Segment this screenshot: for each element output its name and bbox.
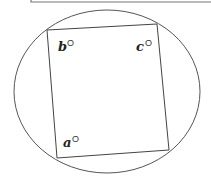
vertex-labels: bOcOaO bbox=[58, 38, 152, 150]
label-c-superscript: O bbox=[145, 38, 152, 48]
label-b: b bbox=[58, 39, 67, 54]
frame-border bbox=[31, 0, 211, 2]
label-b-superscript: O bbox=[67, 38, 74, 48]
label-c: c bbox=[136, 39, 144, 54]
diagram-canvas: bOcOaO bbox=[0, 0, 211, 180]
ellipse bbox=[14, 10, 200, 173]
label-a-superscript: O bbox=[72, 134, 79, 144]
label-a: a bbox=[63, 135, 71, 150]
